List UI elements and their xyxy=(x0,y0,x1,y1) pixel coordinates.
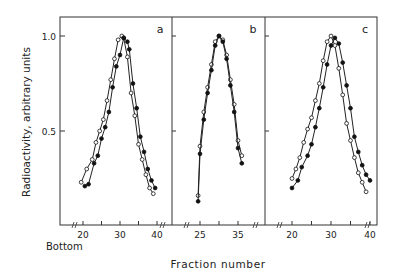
filled-circle-marker xyxy=(96,154,100,158)
curve-filled xyxy=(292,38,370,188)
filled-circle-marker xyxy=(135,106,139,110)
open-circle-marker xyxy=(306,127,310,131)
x-tick-label: 20 xyxy=(77,230,89,240)
open-circle-marker xyxy=(137,142,141,146)
filled-circle-marker xyxy=(107,110,111,114)
x-tick-label: 25 xyxy=(194,230,205,240)
open-circle-marker xyxy=(325,40,329,44)
x-tick-label: 20 xyxy=(286,230,298,240)
filled-circle-marker xyxy=(296,179,300,183)
open-circle-marker xyxy=(105,99,109,103)
open-circle-marker xyxy=(329,34,333,38)
open-circle-marker xyxy=(129,91,133,95)
filled-circle-marker xyxy=(310,142,314,146)
filled-circle-marker xyxy=(138,135,142,139)
panel-b: 2535b xyxy=(184,23,258,240)
filled-circle-marker xyxy=(360,163,364,167)
filled-circle-marker xyxy=(229,84,233,88)
filled-circle-marker xyxy=(210,68,214,72)
open-circle-marker xyxy=(314,99,318,103)
chart: 0.51.0 203040a2535b203040c Radioactivity… xyxy=(0,0,394,278)
open-circle-marker xyxy=(321,59,325,63)
filled-circle-marker xyxy=(150,179,154,183)
open-circle-marker xyxy=(85,167,89,171)
filled-circle-marker xyxy=(213,44,217,48)
open-circle-marker xyxy=(101,118,105,122)
open-circle-marker xyxy=(113,57,117,61)
y-tick-label: 0.5 xyxy=(42,127,56,137)
bottom-annotation: Bottom xyxy=(46,241,83,252)
curve-filled xyxy=(85,38,155,188)
open-circle-marker xyxy=(90,158,94,162)
filled-circle-marker xyxy=(142,150,146,154)
panels: 203040a2535b203040c xyxy=(72,23,376,240)
filled-circle-marker xyxy=(83,184,87,188)
filled-circle-marker xyxy=(225,57,229,61)
x-tick-label: 40 xyxy=(364,230,376,240)
x-tick-label: 30 xyxy=(325,230,337,240)
filled-circle-marker xyxy=(206,91,210,95)
open-circle-marker xyxy=(98,129,102,133)
filled-circle-marker xyxy=(114,65,118,69)
filled-circle-marker xyxy=(364,173,368,177)
filled-circle-marker xyxy=(100,137,104,141)
filled-circle-marker xyxy=(196,199,200,203)
filled-circle-marker xyxy=(356,150,360,154)
y-axis-label: Radioactivity, arbitrary units xyxy=(20,47,32,197)
filled-circle-marker xyxy=(240,161,244,165)
open-circle-marker xyxy=(133,114,137,118)
filled-circle-marker xyxy=(368,179,372,183)
open-circle-marker xyxy=(345,122,349,126)
filled-circle-marker xyxy=(103,125,107,129)
filled-circle-marker xyxy=(333,36,337,40)
filled-circle-marker xyxy=(290,186,294,190)
panel-a: 203040a xyxy=(72,23,165,240)
open-circle-marker xyxy=(310,116,314,120)
filled-circle-marker xyxy=(321,85,325,89)
open-circle-marker xyxy=(144,173,148,177)
x-tick-label: 35 xyxy=(232,230,243,240)
x-axis-label: Fraction number xyxy=(170,258,265,270)
filled-circle-marker xyxy=(131,82,135,86)
filled-circle-marker xyxy=(232,110,236,114)
filled-circle-marker xyxy=(317,106,321,110)
filled-circle-marker xyxy=(127,47,131,51)
filled-circle-marker xyxy=(111,85,115,89)
filled-circle-marker xyxy=(153,186,157,190)
filled-circle-marker xyxy=(345,84,349,88)
open-circle-marker xyxy=(148,186,152,190)
open-circle-marker xyxy=(341,93,345,97)
y-tick-label: 1.0 xyxy=(42,32,57,42)
filled-circle-marker xyxy=(306,154,310,158)
filled-circle-marker xyxy=(353,135,357,139)
open-circle-marker xyxy=(333,44,337,48)
open-circle-marker xyxy=(116,38,120,42)
open-circle-marker xyxy=(356,171,360,175)
filled-circle-marker xyxy=(87,182,91,186)
open-circle-marker xyxy=(298,156,302,160)
filled-circle-marker xyxy=(221,40,225,44)
open-circle-marker xyxy=(290,177,294,181)
open-circle-marker xyxy=(109,78,113,82)
filled-circle-marker xyxy=(202,118,206,122)
panel-label: b xyxy=(250,23,257,36)
filled-circle-marker xyxy=(325,63,329,67)
filled-circle-marker xyxy=(341,61,345,65)
open-circle-marker xyxy=(94,141,98,145)
open-circle-marker xyxy=(337,66,341,70)
filled-circle-marker xyxy=(314,125,318,129)
open-circle-marker xyxy=(140,158,144,162)
plot-frame: 0.51.0 xyxy=(42,17,377,225)
x-tick-label: 40 xyxy=(151,230,163,240)
open-circle-marker xyxy=(151,192,155,196)
filled-circle-marker xyxy=(217,34,221,38)
filled-circle-marker xyxy=(198,152,202,156)
filled-circle-marker xyxy=(349,106,353,110)
open-circle-marker xyxy=(349,139,353,143)
open-circle-marker xyxy=(353,156,357,160)
panel-label: c xyxy=(362,23,368,36)
filled-circle-marker xyxy=(92,161,96,165)
panel-c: 203040c xyxy=(277,23,376,240)
open-circle-marker xyxy=(302,141,306,145)
open-circle-marker xyxy=(79,180,83,184)
